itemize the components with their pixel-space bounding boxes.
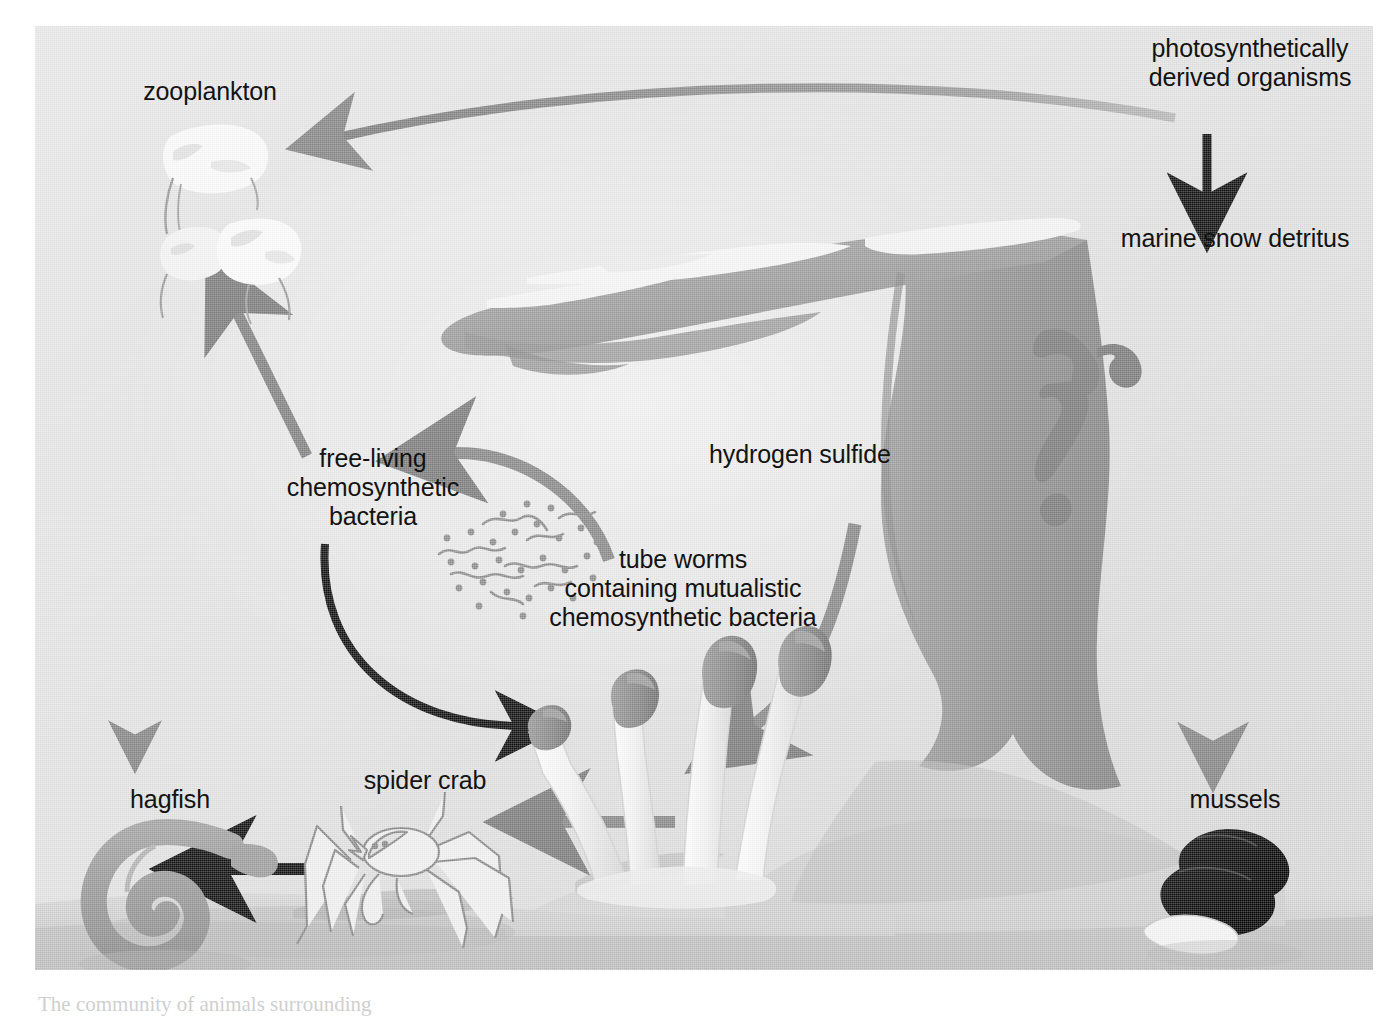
mussels-shadow (1147, 940, 1303, 968)
label-hagfish: hagfish (95, 785, 245, 814)
label-zooplankton: zooplankton (110, 77, 310, 106)
figure-caption-fragment: The community of animals surrounding (38, 992, 938, 1017)
hydrothermal-vent-diagram: photosynthetically derived organisms mar… (35, 26, 1373, 970)
label-tube-worms: tube worms containing mutualistic chemos… (518, 545, 848, 632)
label-marine-snow-detritus: marine snow detritus (1090, 224, 1373, 253)
diagram-canvas (35, 26, 1373, 970)
figure-page: photosynthetically derived organisms mar… (0, 0, 1389, 1017)
label-photosynthetically-derived-organisms: photosynthetically derived organisms (1115, 34, 1373, 92)
label-spider-crab: spider crab (325, 766, 525, 795)
label-mussels: mussels (1145, 785, 1325, 814)
label-hydrogen-sulfide: hydrogen sulfide (690, 440, 910, 469)
label-free-living-chemosynthetic-bacteria: free-living chemosynthetic bacteria (283, 444, 463, 531)
